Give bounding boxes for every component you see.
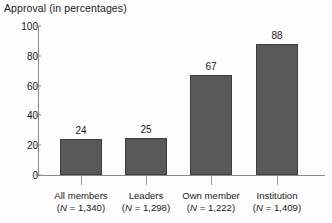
x-tick-mark — [81, 176, 82, 185]
category-label-all-members: All members (N = 1,340) — [54, 190, 107, 214]
category-name: Institution — [253, 190, 301, 202]
category-n: (N = 1,298) — [122, 202, 170, 214]
category-label-leaders: Leaders (N = 1,298) — [122, 190, 170, 214]
x-tick-mark — [211, 176, 212, 185]
category-n: (N = 1,222) — [182, 202, 240, 214]
x-tick-mark — [146, 176, 147, 185]
bar-value-label: 88 — [271, 30, 282, 41]
category-name: All members — [54, 190, 107, 202]
x-tick-mark — [277, 176, 278, 185]
bar-chart: Approval (in percentages) 100 80 60 40 2… — [0, 0, 332, 223]
category-name: Own member — [182, 190, 240, 202]
bar-own-member — [190, 75, 232, 175]
bar-value-label: 25 — [140, 124, 151, 135]
y-axis-line — [38, 26, 39, 175]
category-n: (N = 1,409) — [253, 202, 301, 214]
category-name: Leaders — [122, 190, 170, 202]
bar-all-members — [60, 139, 102, 175]
plot-area: 100 80 60 40 20 0 — [0, 0, 332, 223]
bar-institution — [256, 44, 298, 175]
bar-value-label: 24 — [75, 125, 86, 136]
category-label-institution: Institution (N = 1,409) — [253, 190, 301, 214]
category-label-own-member: Own member (N = 1,222) — [182, 190, 240, 214]
category-n: (N = 1,340) — [54, 202, 107, 214]
bar-leaders — [125, 138, 167, 175]
bar-value-label: 67 — [205, 61, 216, 72]
